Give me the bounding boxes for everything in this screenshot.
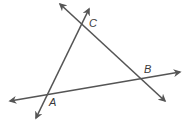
line-ac: [36, 9, 89, 118]
label-a: A: [48, 96, 56, 108]
triangle-diagram: C B A: [0, 0, 185, 124]
label-b: B: [144, 63, 151, 75]
line-cb: [60, 4, 165, 101]
line-ab: [10, 72, 180, 101]
label-c: C: [89, 17, 97, 29]
